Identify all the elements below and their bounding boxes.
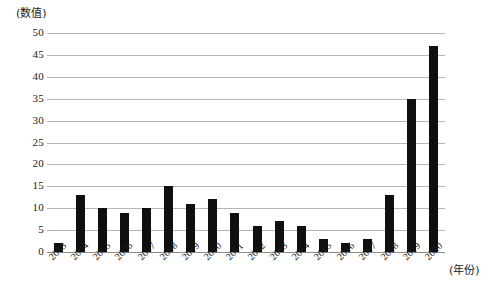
- y-axis-tick-label: 5: [38, 224, 44, 235]
- y-axis-tick-label: 30: [33, 115, 44, 126]
- plot-area: [47, 33, 445, 252]
- gridline: [47, 164, 445, 165]
- y-axis-tick-label: 45: [33, 49, 44, 60]
- y-axis-tick-label: 40: [33, 71, 44, 82]
- y-axis-tick-label: 20: [33, 158, 44, 169]
- y-axis-tick-label: 0: [38, 246, 44, 257]
- gridline: [47, 55, 445, 56]
- x-axis-unit-label: (年份): [449, 265, 480, 277]
- y-axis-tick-label: 50: [33, 27, 44, 38]
- gridline: [47, 186, 445, 187]
- bar: [429, 46, 438, 252]
- gridline: [47, 143, 445, 144]
- bar: [407, 99, 416, 252]
- y-axis-unit-label: (数值): [16, 7, 47, 20]
- bar-chart: (数值) (年份) 504540353025201510502003200420…: [0, 0, 498, 296]
- y-axis-tick-label: 35: [33, 93, 44, 104]
- y-axis-tick-label: 15: [33, 180, 44, 191]
- gridline: [47, 77, 445, 78]
- gridline: [47, 99, 445, 100]
- y-axis-tick-label: 25: [33, 137, 44, 148]
- gridline: [47, 121, 445, 122]
- y-axis-tick-label: 10: [33, 202, 44, 213]
- gridline: [47, 33, 445, 34]
